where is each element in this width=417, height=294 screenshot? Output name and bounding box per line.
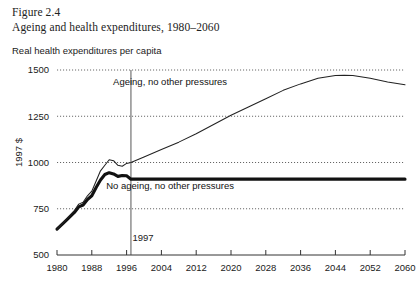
x-tick-label: 1996 <box>116 262 137 273</box>
data-series <box>57 75 405 229</box>
y-tick-label: 1250 <box>28 111 49 122</box>
y-axis-title: 1997 $ <box>13 137 24 167</box>
axis-tickmarks <box>92 250 370 255</box>
series-annotations: Ageing, no other pressures No ageing, no… <box>106 76 234 192</box>
x-tick-label: 2004 <box>151 262 172 273</box>
y-axis-title-text: 1997 $ <box>13 137 24 167</box>
y-tick-label: 1000 <box>28 157 49 168</box>
series-line-ageing <box>57 75 405 229</box>
x-tick-label: 1980 <box>46 262 67 273</box>
chart-plot-area: 500750100012501500 198019881996200420122… <box>0 0 417 294</box>
annotation-no-ageing-label: No ageing, no other pressures <box>106 180 234 191</box>
x-tick-label: 2036 <box>290 262 311 273</box>
y-axis-tick-labels: 500750100012501500 <box>28 64 49 260</box>
marker-label-1997: 1997 <box>132 232 153 243</box>
x-tick-label: 2052 <box>360 262 381 273</box>
y-tick-label: 1500 <box>28 64 49 75</box>
y-tick-label: 750 <box>33 203 49 214</box>
x-tick-label: 2012 <box>186 262 207 273</box>
x-axis-tick-labels: 1980198819962004201220202028203620442052… <box>46 262 415 273</box>
annotation-ageing-label: Ageing, no other pressures <box>113 76 227 87</box>
figure-container: Figure 2.4 Ageing and health expenditure… <box>0 0 417 294</box>
x-tick-label: 1988 <box>81 262 102 273</box>
x-tick-label: 2060 <box>394 262 415 273</box>
x-tick-label: 2020 <box>220 262 241 273</box>
x-tick-label: 2044 <box>325 262 346 273</box>
x-tick-label: 2028 <box>255 262 276 273</box>
y-tick-label: 500 <box>33 249 49 260</box>
